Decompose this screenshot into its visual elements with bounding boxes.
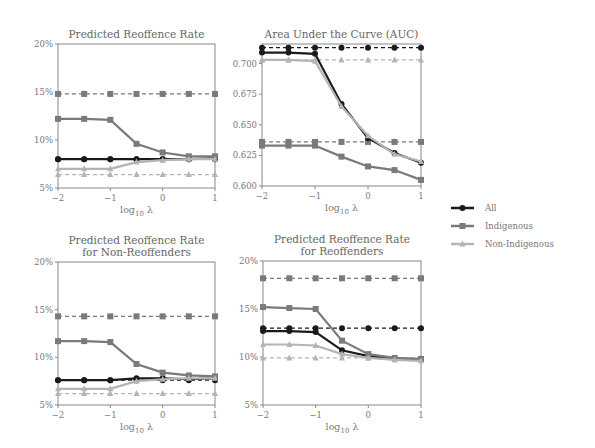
x-tick-label: −2 <box>52 193 65 203</box>
legend-label: All <box>484 203 497 213</box>
series-indigenous-baseline <box>55 313 218 319</box>
x-axis-label: log10 λ <box>120 421 153 435</box>
y-tick-label: 10% <box>34 352 53 362</box>
series-indigenous-baseline <box>55 91 218 97</box>
x-tick-label: 0 <box>160 193 165 203</box>
series-non-indigenous <box>259 56 424 164</box>
legend-item-indigenous: Indigenous <box>451 221 533 231</box>
x-tick-label: 0 <box>365 191 370 201</box>
x-tick-label: −1 <box>309 191 322 201</box>
legend-label: Indigenous <box>485 221 533 231</box>
legend-item-all: All <box>451 203 497 213</box>
x-axis-label: log10 λ <box>120 204 153 218</box>
y-tick-label: 15% <box>34 87 53 97</box>
series-indigenous <box>259 143 424 183</box>
series-indigenous <box>55 116 218 159</box>
series-non-indigenous-baseline <box>55 171 218 177</box>
series-indigenous-baseline <box>259 139 424 145</box>
panel-auc: Area Under the Curve (AUC)0.6000.6250.65… <box>233 28 424 216</box>
y-tick-label: 15% <box>239 304 258 314</box>
axes-frame <box>262 44 421 186</box>
x-tick-label: −2 <box>256 191 269 201</box>
series-all-baseline <box>259 45 424 51</box>
panel-title: Predicted Reoffence Rate <box>274 233 410 245</box>
panel-reoffence-rate: Predicted Reoffence Rate5%10%15%20%−2−10… <box>34 28 218 218</box>
x-tick-label: 1 <box>418 410 423 420</box>
y-tick-label: 0.600 <box>233 181 257 191</box>
y-tick-label: 0.675 <box>233 89 257 99</box>
figure-canvas: Predicted Reoffence Rate5%10%15%20%−2−10… <box>0 0 595 448</box>
x-tick-label: 1 <box>418 191 423 201</box>
panel-non-reoffenders: Predicted Reoffence Ratefor Non-Reoffend… <box>34 234 218 435</box>
series-indigenous <box>55 338 218 379</box>
legend: AllIndigenousNon-Indigenous <box>451 203 554 249</box>
x-tick-label: −1 <box>104 193 117 203</box>
y-tick-label: 5% <box>245 400 259 410</box>
x-tick-label: 0 <box>160 410 165 420</box>
x-tick-label: 1 <box>212 410 217 420</box>
panel-title: Predicted Reoffence Rate <box>69 234 205 246</box>
x-axis-label: log10 λ <box>326 421 359 435</box>
panel-title: for Reoffenders <box>301 245 384 257</box>
y-tick-label: 10% <box>34 135 53 145</box>
y-tick-label: 20% <box>34 39 53 49</box>
x-tick-label: −1 <box>104 410 117 420</box>
axes-frame <box>263 261 421 405</box>
x-tick-label: −2 <box>52 410 65 420</box>
y-tick-label: 0.700 <box>233 59 257 69</box>
y-tick-label: 20% <box>34 257 53 267</box>
y-tick-label: 10% <box>239 352 258 362</box>
legend-item-non-indigenous: Non-Indigenous <box>451 239 554 249</box>
y-tick-label: 15% <box>34 305 53 315</box>
x-axis-label: log10 λ <box>325 202 358 216</box>
x-tick-label: 0 <box>366 410 371 420</box>
panel-title: Predicted Reoffence Rate <box>69 28 205 40</box>
panel-reoffenders: Predicted Reoffence Ratefor Reoffenders5… <box>239 233 424 435</box>
x-tick-label: −2 <box>257 410 270 420</box>
y-tick-label: 5% <box>40 183 54 193</box>
panel-title: Area Under the Curve (AUC) <box>264 28 419 40</box>
x-tick-label: 1 <box>212 193 217 203</box>
panel-title: for Non-Reoffenders <box>82 246 191 258</box>
y-tick-label: 20% <box>239 256 258 266</box>
legend-label: Non-Indigenous <box>485 239 554 249</box>
y-tick-label: 0.625 <box>233 150 257 160</box>
series-non-indigenous-baseline <box>55 390 218 396</box>
x-tick-label: −1 <box>309 410 322 420</box>
y-tick-label: 5% <box>40 400 54 410</box>
series-indigenous-baseline <box>260 275 424 281</box>
y-tick-label: 0.650 <box>233 120 257 130</box>
